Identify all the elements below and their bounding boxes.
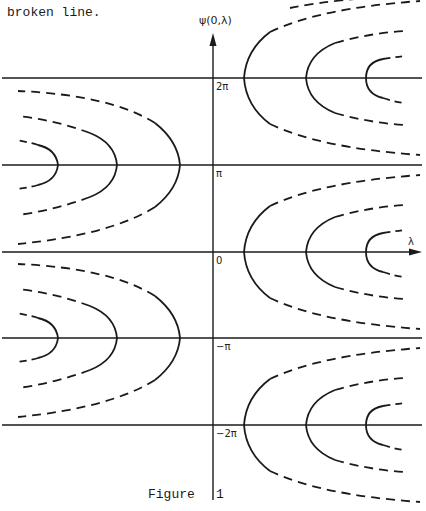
family-pi xyxy=(16,91,180,244)
tick-label-pi: π xyxy=(216,168,222,179)
tick-label-neg-pi: −π xyxy=(216,341,230,352)
tick-label-2pi: 2π xyxy=(216,81,228,92)
figure-number: 1 xyxy=(216,487,224,502)
phase-diagram xyxy=(0,0,426,511)
family-neg-pi xyxy=(16,264,180,417)
x-axis-label: λ xyxy=(408,236,414,247)
x-axis-arrow-icon xyxy=(409,249,422,256)
tick-label-zero: 0 xyxy=(216,255,222,266)
figure-caption: Figure xyxy=(148,487,195,502)
y-axis-arrow-icon xyxy=(210,33,217,46)
y-axis-label: ψ(0,λ) xyxy=(199,14,232,27)
tick-label-neg-2pi: −2π xyxy=(216,428,237,439)
partial-curve-top xyxy=(290,0,420,8)
